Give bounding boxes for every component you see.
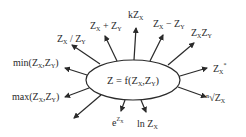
arrow-sum bbox=[105, 36, 117, 61]
arrow-product bbox=[168, 43, 194, 65]
label-power: ZX* bbox=[213, 62, 226, 75]
arrow-scale bbox=[134, 28, 136, 60]
label-log: ln ZX bbox=[137, 118, 158, 130]
arrow-log bbox=[141, 100, 146, 112]
label-root: ⁿ√ZX bbox=[206, 92, 226, 104]
arrow-max bbox=[65, 88, 89, 97]
arrow-exp bbox=[121, 100, 125, 111]
label-difference: ZX − ZY bbox=[153, 18, 185, 30]
radial-diagram: ZX / ZYZX + ZYkZXZX − ZYZXZYZX*ⁿ√ZXln ZX… bbox=[0, 0, 246, 137]
label-min: min(ZX,ZY) bbox=[13, 57, 59, 69]
label-scale: kZX bbox=[128, 9, 144, 21]
label-product: ZXZY bbox=[191, 27, 213, 39]
label-ratio: ZX / ZY bbox=[57, 33, 86, 45]
arrow-ratio bbox=[72, 45, 100, 64]
arrow-unlabeled bbox=[74, 95, 101, 118]
arrow-power bbox=[180, 68, 207, 76]
arrow-min bbox=[65, 68, 87, 75]
label-exp: eZX bbox=[112, 116, 124, 128]
label-max: max(ZX,ZY) bbox=[12, 91, 59, 103]
arrow-difference bbox=[150, 35, 163, 61]
center-label: Z = f(ZX,ZY) bbox=[107, 75, 160, 87]
arrow-root bbox=[178, 87, 206, 97]
label-sum: ZX + ZY bbox=[90, 20, 122, 32]
